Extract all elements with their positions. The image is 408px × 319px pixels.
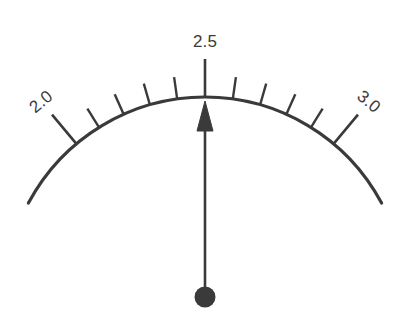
minor-tick: [87, 109, 99, 128]
needle-pivot: [195, 287, 216, 308]
gauge-canvas: 2.02.53.0: [0, 0, 408, 319]
tick-label: 2.5: [193, 32, 217, 51]
minor-tick: [144, 84, 150, 105]
minor-tick: [233, 77, 236, 99]
tick-label: 3.0: [354, 87, 385, 117]
tick-label: 2.0: [26, 87, 57, 117]
minor-tick: [174, 77, 177, 99]
needle-arrowhead: [197, 101, 213, 131]
major-tick: [52, 115, 76, 144]
minor-tick: [286, 94, 295, 114]
major-tick: [334, 115, 358, 144]
minor-tick: [311, 109, 323, 128]
minor-tick: [115, 94, 124, 114]
minor-tick: [260, 84, 266, 105]
gauge-widget: 2.02.53.0: [0, 0, 408, 319]
